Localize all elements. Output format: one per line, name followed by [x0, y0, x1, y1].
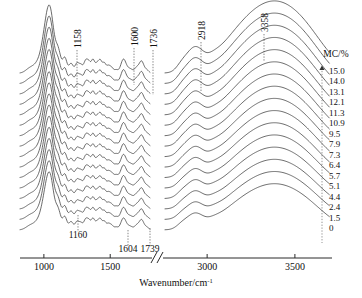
peak-label-bottom: 1604: [119, 244, 138, 254]
legend-value: 9.5: [329, 129, 341, 139]
legend-value: 15.0: [329, 66, 345, 76]
x-axis-tick-label: 3000: [197, 261, 217, 272]
x-axis-tick-label: 1000: [34, 261, 54, 272]
ftir-spectra-figure: 11581600173629183358 116016041739 100015…: [0, 0, 362, 298]
peak-label-top: 2918: [197, 21, 207, 40]
legend-value: 5.1: [329, 181, 340, 191]
legend-value: 0: [329, 223, 334, 233]
legend-value: 5.7: [329, 171, 341, 181]
x-axis-tick-label: 1500: [100, 261, 120, 272]
legend-value: 6.4: [329, 160, 341, 170]
x-axis-title-text: Wavenumber/cm: [139, 277, 207, 288]
legend-value: 7.3: [329, 150, 341, 160]
legend-value: 12.1: [329, 97, 345, 107]
peak-label-top: 1736: [149, 29, 159, 48]
legend-value: 13.1: [329, 87, 345, 97]
peak-label-bottom: 1160: [69, 230, 88, 240]
peak-label-top: 3358: [260, 13, 270, 32]
x-axis-title: Wavenumber/cm-1: [139, 277, 212, 289]
peak-label-top: 1600: [130, 27, 140, 46]
legend-value: 4.4: [329, 192, 341, 202]
legend-value: 1.5: [329, 213, 341, 223]
chart-canvas: 11581600173629183358 116016041739 100015…: [0, 0, 362, 298]
peak-label-top: 1158: [73, 29, 83, 48]
x-axis-title-superscript: -1: [207, 277, 212, 284]
x-axis-tick-label: 3500: [285, 261, 305, 272]
legend-value: 7.9: [329, 139, 341, 149]
legend-header: MC/%: [323, 49, 348, 59]
legend-value: 14.0: [329, 76, 345, 86]
legend-value: 10.9: [329, 118, 345, 128]
legend-value: 2.4: [329, 202, 341, 212]
legend-value: 11.3: [329, 108, 345, 118]
